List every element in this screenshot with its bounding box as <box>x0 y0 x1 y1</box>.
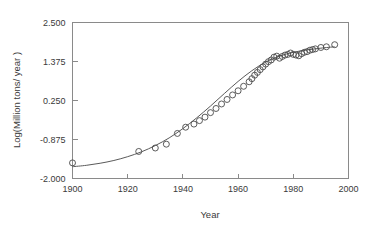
data-point <box>219 101 225 107</box>
y-tick-label: 1.375 <box>43 57 66 67</box>
data-point <box>163 141 169 147</box>
x-tick-label: 1980 <box>283 184 303 194</box>
x-tick-label: 1920 <box>118 184 138 194</box>
x-axis-title: Year <box>200 209 219 220</box>
y-axis-title: Log(Million tons/ year ) <box>11 52 22 148</box>
data-point <box>230 92 236 98</box>
plot-frame <box>73 23 349 179</box>
x-axis-tick-marks <box>128 174 294 179</box>
logistic-fit-curve <box>73 47 335 167</box>
data-point <box>191 121 197 127</box>
y-axis-tick-labels: -2.000-0.8750.2501.3752.500 <box>40 18 66 184</box>
x-tick-label: 1900 <box>62 184 82 194</box>
data-point <box>208 110 214 116</box>
y-axis-tick-marks <box>73 62 78 140</box>
x-tick-label: 1940 <box>173 184 193 194</box>
data-point <box>323 44 329 50</box>
y-tick-label: -0.875 <box>40 135 66 145</box>
data-point <box>241 83 247 89</box>
x-tick-label: 2000 <box>338 184 358 194</box>
data-point <box>235 88 241 94</box>
y-tick-label: 0.250 <box>43 96 66 106</box>
y-tick-label: -2.000 <box>40 174 66 184</box>
x-tick-label: 1960 <box>228 184 248 194</box>
chart-figure: -2.000-0.8750.2501.3752.500 190019201940… <box>0 0 374 231</box>
y-tick-label: 2.500 <box>43 18 66 28</box>
data-point <box>183 124 189 130</box>
data-point <box>196 118 202 124</box>
data-point-markers <box>70 42 338 166</box>
data-point <box>202 114 208 120</box>
x-axis-tick-labels: 190019201940196019802000 <box>62 184 358 194</box>
data-point <box>224 96 230 102</box>
data-point <box>136 148 142 154</box>
data-point <box>213 105 219 111</box>
scatter-plot-svg: -2.000-0.8750.2501.3752.500 190019201940… <box>0 0 374 231</box>
